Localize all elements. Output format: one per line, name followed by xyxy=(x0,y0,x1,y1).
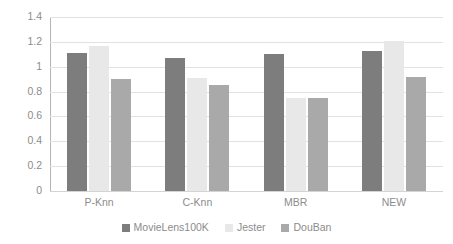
y-axis-tick-label: 1.4 xyxy=(0,11,42,22)
bar-group xyxy=(345,17,443,191)
bar-group xyxy=(247,17,345,191)
bar xyxy=(165,58,185,191)
x-axis-tick-label: C-Knn xyxy=(148,196,246,209)
plot-area xyxy=(50,17,443,191)
y-axis-tick-label: 0.4 xyxy=(0,135,42,146)
legend-label: DouBan xyxy=(293,222,331,233)
y-axis-tick-label: 1.2 xyxy=(0,36,42,47)
bar xyxy=(89,46,109,191)
y-axis-tick-label: 0.8 xyxy=(0,86,42,97)
bar-chart: 00.20.40.60.811.21.4 P-KnnC-KnnMBRNEW Mo… xyxy=(0,0,453,244)
bar xyxy=(187,78,207,191)
bar-group xyxy=(50,17,148,191)
legend-swatch-icon xyxy=(281,224,289,232)
y-axis-tick-label: 1 xyxy=(0,61,42,72)
legend-item: DouBan xyxy=(281,222,331,233)
legend-item: MovieLens100K xyxy=(122,222,209,233)
bar xyxy=(362,51,382,191)
x-axis-tick-label: NEW xyxy=(345,196,443,209)
bar xyxy=(384,41,404,191)
x-axis-tick-label: P-Knn xyxy=(50,196,148,209)
x-axis-labels: P-KnnC-KnnMBRNEW xyxy=(50,196,443,212)
legend-label: Jester xyxy=(237,222,266,233)
bar xyxy=(67,53,87,191)
x-axis-tick-label: MBR xyxy=(247,196,345,209)
legend-swatch-icon xyxy=(225,224,233,232)
y-axis-tick-label: 0 xyxy=(0,185,42,196)
legend-swatch-icon xyxy=(122,224,130,232)
bar xyxy=(264,54,284,191)
y-axis-tick-label: 0.6 xyxy=(0,110,42,121)
bar xyxy=(308,98,328,191)
y-axis-tick-label: 0.2 xyxy=(0,160,42,171)
bar-group xyxy=(148,17,246,191)
bar xyxy=(406,77,426,191)
legend-label: MovieLens100K xyxy=(134,222,209,233)
gridline xyxy=(50,191,443,192)
bar xyxy=(286,98,306,191)
chart-legend: MovieLens100KJesterDouBan xyxy=(0,222,453,233)
bar xyxy=(111,79,131,191)
y-axis-labels: 00.20.40.60.811.21.4 xyxy=(0,0,46,244)
bar xyxy=(209,85,229,191)
legend-item: Jester xyxy=(225,222,266,233)
